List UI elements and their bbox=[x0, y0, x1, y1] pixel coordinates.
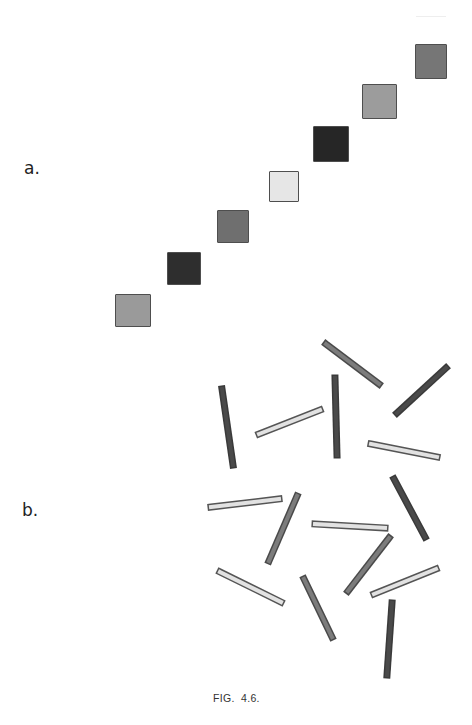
bar-13-light bbox=[374, 569, 436, 594]
bar-15-dark bbox=[387, 603, 392, 675]
part-b-label: b. bbox=[22, 500, 38, 520]
bar-14-mid bbox=[304, 579, 332, 637]
part-b-bars bbox=[0, 0, 472, 725]
figure-caption: FIG. 4.6. bbox=[213, 692, 260, 704]
bar-7-light bbox=[211, 499, 279, 507]
figure: a. b. FIG. 4.6. bbox=[0, 0, 472, 725]
bar-12-light bbox=[220, 572, 281, 602]
bar-4-light bbox=[259, 410, 320, 434]
bar-5-dark bbox=[335, 378, 337, 455]
bar-9-light bbox=[315, 524, 385, 528]
bar-10-dark bbox=[394, 479, 425, 537]
bar-2-dark bbox=[397, 368, 446, 413]
bar-11-mid bbox=[348, 538, 389, 591]
bar-6-light bbox=[371, 444, 437, 457]
bar-8-mid bbox=[269, 496, 297, 561]
bar-3-dark bbox=[222, 389, 233, 465]
